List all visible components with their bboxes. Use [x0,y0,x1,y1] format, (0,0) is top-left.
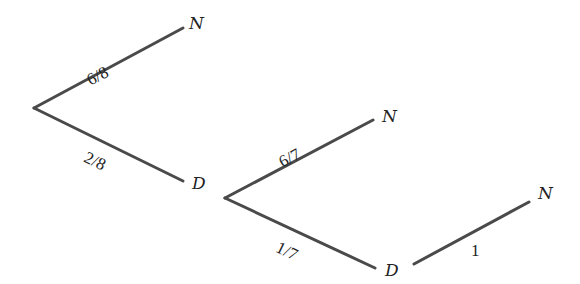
outcome-node-1-upper: N [188,13,205,33]
prob-label-3: 1 [471,241,480,260]
prob-label-1-lower: 2/8 [81,148,109,175]
prob-label-2-upper: 6/7 [275,144,304,171]
outcome-node-2-lower: D [384,260,399,280]
stage-1: 6/8 2/8 N D [34,13,206,193]
probability-tree: 6/8 2/8 N D 6/7 1/7 N D 1 N [0,0,580,284]
outcome-node-1-lower: D [191,173,206,193]
branch-1-upper [34,28,183,108]
prob-label-2-lower: 1/7 [273,238,301,265]
stage-3: 1 N [414,183,554,264]
branch-1-lower [34,108,183,181]
outcome-node-3: N [537,183,554,203]
outcome-node-2-upper: N [381,106,398,126]
prob-label-1-upper: 6/8 [83,62,111,89]
branch-2-lower [225,198,375,268]
stage-2: 6/7 1/7 N D [225,106,399,280]
